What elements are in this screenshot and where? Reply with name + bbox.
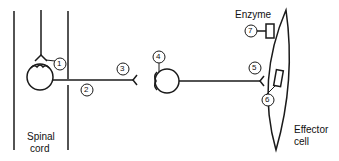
enzyme-label: Enzyme (235, 9, 271, 21)
ganglion-cell-body (155, 69, 179, 93)
effector-label-2: cell (294, 136, 309, 148)
marker-6-label: 6 (265, 94, 269, 106)
spinal-label-2: cord (30, 143, 49, 155)
enzyme-box (266, 24, 274, 38)
marker-5-label: 5 (252, 62, 256, 74)
receptor-6 (274, 70, 284, 87)
marker-4-label: 4 (156, 51, 160, 63)
spinal-label-1: Spinal (27, 131, 55, 143)
receptor-site-1 (31, 65, 49, 68)
postganglionic-terminal (260, 76, 264, 86)
marker-1-leader (46, 60, 55, 61)
marker-2-label: 2 (84, 84, 88, 96)
preganglionic-terminal (133, 75, 137, 85)
effector-label-1: Effector (294, 124, 328, 136)
marker-3-label: 3 (120, 63, 124, 75)
marker-1-label: 1 (57, 58, 61, 70)
marker-7-label: 7 (248, 25, 252, 37)
descending-axon-terminal (35, 55, 47, 61)
